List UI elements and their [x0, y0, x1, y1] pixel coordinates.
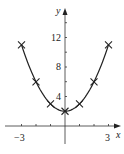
y-axis-label: y [55, 5, 61, 16]
y-tick-label-4: 4 [56, 91, 61, 102]
y-tick-label-8: 8 [56, 61, 61, 72]
x-tick-label-3: 3 [105, 132, 110, 143]
x-axis-arrow-icon [114, 124, 121, 129]
y-axis-arrow-icon [63, 8, 68, 15]
y-tick-label-12: 12 [51, 32, 61, 43]
x-axis-label: x [115, 129, 121, 140]
parabola-chart: −3 3 x y 4 8 12 [0, 0, 124, 154]
x-tick-label-neg3: −3 [14, 132, 25, 143]
